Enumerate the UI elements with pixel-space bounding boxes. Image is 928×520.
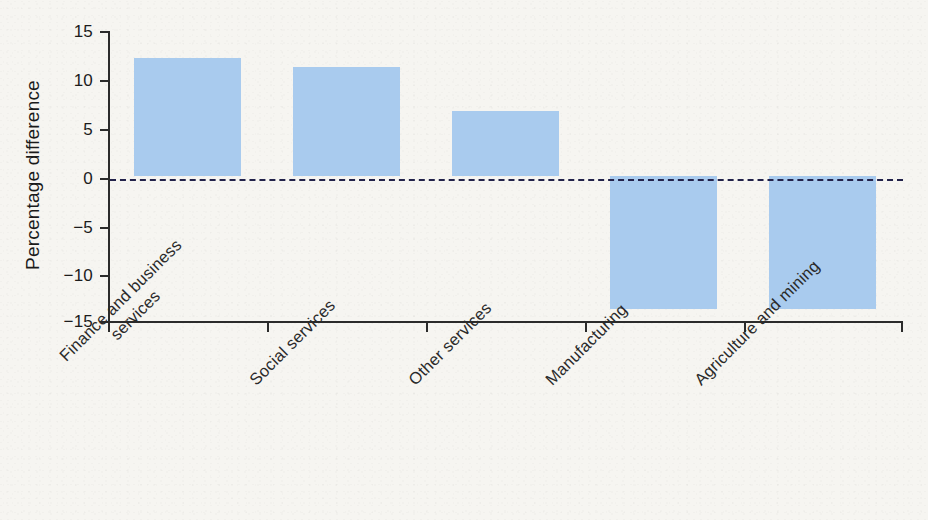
bar-manufacturing — [610, 176, 717, 309]
zero-reference-line — [110, 179, 903, 181]
bar-social-services — [293, 67, 400, 176]
bar-series — [0, 0, 928, 520]
bar-other-services — [452, 111, 559, 176]
bar-finance-and-business-services — [134, 58, 241, 176]
bar-chart-figure: Percentage difference 15 10 5 0 −5 −10 −… — [0, 0, 928, 520]
